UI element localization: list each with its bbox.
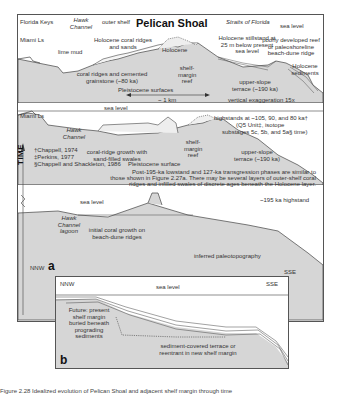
label-inferred-paleotopography: inferred paleotopography (194, 253, 261, 260)
label-straits-of-florida: Straits of Florida (226, 19, 270, 26)
label-sse: SSE (284, 269, 296, 276)
time-axis-label: TIME (16, 144, 25, 165)
label-coral-ridges-grainstone: coral ridges and cemented grainstone (~8… (72, 71, 152, 84)
figure-title: Pelican Shoal (136, 17, 208, 29)
label-poorly-developed-reef: poorly developed reef or paleoshoreline … (262, 37, 320, 57)
label-hawk-channel-lagoon: Hawk Channel lagoon (56, 215, 82, 235)
label-shelf-margin-reef-2: shelf-margin reef (184, 139, 202, 159)
ref-perkins-1977: ‡Perkins, 1977 (34, 154, 74, 161)
label-hawk-channel-2: Hawk Channel (62, 127, 86, 140)
label-sediment-terrace: sediment-covered terrace or reentrant in… (148, 343, 248, 356)
label-future: Future: present shelf margin buried bene… (64, 307, 114, 340)
label-sea-level: sea level (280, 23, 304, 30)
panel-b-letter: b (60, 353, 67, 367)
label-shelf-margin-reef: shelf-margin reef (178, 65, 196, 85)
label-miami-ls-2: Miami Ls (20, 113, 44, 120)
label-holocene-coral-ridges: Holocene coral ridges and sands (93, 37, 153, 50)
label-hawk-channel: Hawk Channel (66, 17, 96, 30)
label-sse-b: SSE (266, 281, 278, 288)
label-upper-slope-terrace-1: upper-slope terrace (~190 ka) (230, 79, 280, 92)
label-pleistocene-surfaces: Pleistocene surfaces (118, 87, 173, 94)
label-q5-unit: (Q5 Unit‡, isotope (236, 122, 284, 129)
label-195ka-highstand: ~195 ka highstand (260, 197, 309, 204)
label-sea-level-3: sea level (80, 199, 104, 206)
note-line-3: ridges and infilled swales of discrete a… (58, 181, 316, 188)
label-holocene: Holocene (162, 47, 187, 54)
panel-a-letter: a (48, 259, 55, 273)
label-lime-mud: lime mud (58, 49, 82, 56)
label-substages: substages 5c, 5b, and 5a§ time) (222, 129, 307, 136)
label-initial-coral-growth: initial coral growth on beach-dune ridge… (82, 227, 152, 240)
figure-caption: Figure 2.28 Idealized evolution of Pelic… (0, 388, 342, 394)
ref-chappell-shackleton-1986: §Chappell and Shackleton, 1986 (34, 161, 121, 168)
ref-chappell-1974: †Chappell, 1974 (34, 147, 78, 154)
label-scale: ~ 1 km (158, 97, 176, 104)
label-nnw-b: NNW (60, 281, 74, 288)
label-sea-level-2: sea level (104, 105, 128, 112)
label-nnw: NNW (30, 265, 44, 272)
label-miami-ls: Miami Ls (20, 37, 44, 44)
label-holocene-sediments: Holocene sediments (288, 63, 322, 76)
label-sea-level-b: sea level (156, 284, 180, 291)
label-florida-keys: Florida Keys (20, 19, 53, 26)
panel-b: NNW SSE sea level Future: present shelf … (55, 276, 289, 369)
label-vertical-exaggeration: vertical exaggeration 15x (228, 97, 295, 104)
label-outer-shelf: outer shelf (102, 19, 130, 26)
label-highstands: highstands at ~105, 90, and 80 ka† (214, 115, 308, 122)
label-upper-slope-terrace-2: upper-slope terrace (~190 ka) (232, 149, 282, 162)
label-pleistocene-surface: Pleistocene surface (128, 161, 180, 168)
